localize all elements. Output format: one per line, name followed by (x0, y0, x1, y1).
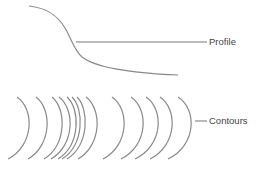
profile-curve (29, 6, 178, 75)
contour-arc (103, 97, 124, 159)
diagram-canvas (0, 0, 264, 169)
contour-arc (150, 97, 172, 159)
contour-arc (135, 97, 158, 159)
contour-arc (28, 97, 47, 159)
contour-arcs (8, 97, 191, 159)
contour-arc (8, 97, 29, 159)
contour-arc (58, 97, 76, 159)
contour-arc (78, 97, 97, 159)
contours-label: Contours (209, 116, 248, 126)
profile-label: Profile (209, 37, 236, 47)
